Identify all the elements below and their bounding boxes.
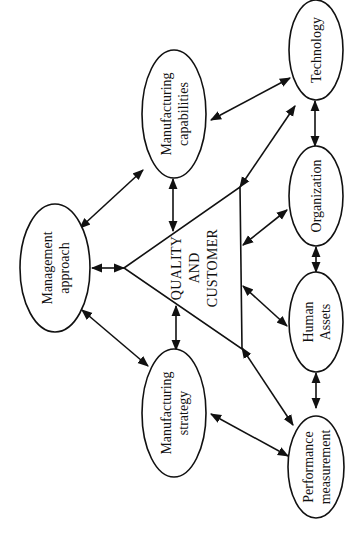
node-performance-measurement: Performance measurement [288,416,344,518]
edge-management-capabilities [80,170,143,228]
node-manufacturing-strategy: Manufacturing strategy [142,349,206,477]
center-label-line-3: CUSTOMER [205,228,220,307]
edge-capabilities-technology [211,78,290,120]
node-label: approach [57,242,72,293]
edge-quality-human-assets [243,286,287,326]
node-technology: Technology [289,0,343,100]
node-label: Assets [318,304,333,341]
center-label-line-1: QUALITY [169,236,184,300]
node-label: Manufacturing [159,371,174,454]
center-label-line-2: AND [187,252,202,283]
diagram-canvas: QUALITY AND CUSTOMER Management approach… [0,0,362,536]
node-human-assets: Human Assets [289,272,343,372]
edge-quality-organization [243,210,287,245]
quality-customer-triangle: QUALITY AND CUSTOMER [124,187,242,349]
diagram-svg: QUALITY AND CUSTOMER Management approach… [0,0,362,536]
edge-strategy-performance [211,414,288,456]
node-management-approach: Management approach [20,204,90,332]
node-label: Manufacturing [159,72,174,155]
node-label: Human [301,301,316,342]
node-label: measurement [318,430,333,505]
edge-quality-performance [242,348,293,425]
node-label: Organization [309,160,324,233]
edge-quality-technology [240,106,295,187]
node-label: Management [40,231,55,304]
node-label: Performance [301,431,316,503]
node-manufacturing-capabilities: Manufacturing capabilities [142,50,206,178]
node-organization: Organization [289,146,343,246]
node-label: capabilities [176,82,191,146]
node-label: Technology [309,17,324,83]
node-label: strategy [176,391,191,435]
edge-management-strategy [82,310,148,366]
